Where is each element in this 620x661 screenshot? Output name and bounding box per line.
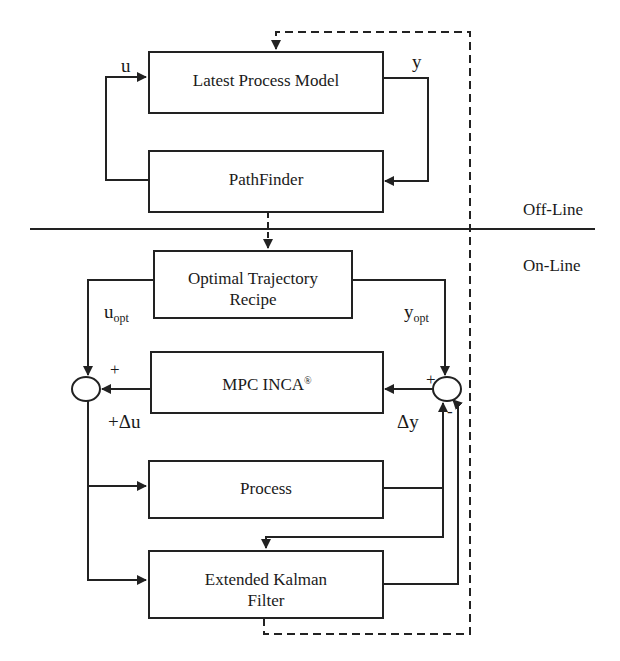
optimal-trajectory-label-line2: Recipe bbox=[229, 289, 276, 310]
ekf-label-line2: Filter bbox=[248, 590, 285, 611]
online-section-label: On-Line bbox=[523, 256, 581, 276]
y-feedback-line bbox=[383, 78, 428, 181]
pathfinder-label: PathFinder bbox=[229, 169, 304, 190]
pathfinder-block: PathFinder bbox=[148, 150, 384, 213]
offline-section-label: Off-Line bbox=[523, 200, 583, 220]
u-opt-label: uopt bbox=[104, 302, 129, 328]
ekf-to-sum-line bbox=[383, 400, 458, 584]
y-signal-label: y bbox=[412, 52, 422, 72]
left-summing-junction bbox=[72, 377, 100, 401]
mpc-inca-block: MPC INCA® bbox=[150, 351, 384, 414]
right-minus-sign: - bbox=[447, 402, 453, 422]
u-to-ekf-line bbox=[88, 486, 146, 580]
y-opt-label: yopt bbox=[404, 302, 429, 328]
extended-kalman-filter-block: Extended Kalman Filter bbox=[148, 550, 384, 619]
optimal-trajectory-label-line1: Optimal Trajectory bbox=[188, 268, 318, 289]
latest-process-model-label: Latest Process Model bbox=[193, 70, 339, 91]
latest-process-model-block: Latest Process Model bbox=[148, 51, 384, 114]
u-signal-label: u bbox=[121, 56, 131, 76]
ekf-label-line1: Extended Kalman bbox=[205, 569, 327, 590]
optimal-trajectory-recipe-block: Optimal Trajectory Recipe bbox=[153, 250, 353, 319]
right-plus-sign: + bbox=[426, 370, 436, 390]
registered-mark: ® bbox=[304, 375, 312, 386]
process-label: Process bbox=[240, 478, 292, 499]
u-feedback-line bbox=[106, 77, 148, 180]
delta-u-label: +Δu bbox=[108, 412, 140, 432]
right-summing-junction bbox=[433, 377, 461, 401]
mpc-inca-label: MPC INCA® bbox=[222, 370, 311, 395]
ekf-to-model-dashed bbox=[264, 32, 470, 634]
delta-y-label: Δy bbox=[397, 412, 419, 432]
process-block: Process bbox=[148, 460, 384, 519]
left-plus-sign: + bbox=[110, 360, 120, 380]
